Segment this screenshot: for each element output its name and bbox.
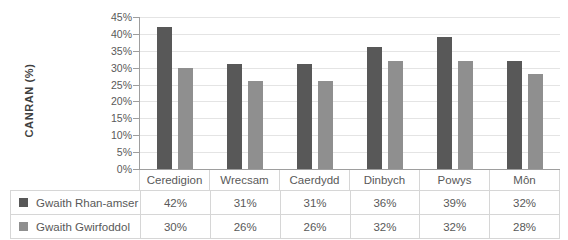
y-tick-label: 10% (94, 129, 132, 141)
bar-series-1 (367, 47, 382, 169)
value-cell: 42% (140, 191, 210, 214)
y-tick-label: 45% (94, 11, 132, 23)
y-tick-label: 40% (94, 28, 132, 40)
value-cell: 31% (280, 191, 350, 214)
bar-series-1 (157, 27, 172, 169)
value-cell: 26% (210, 214, 280, 238)
gridline (140, 68, 560, 69)
category-label: Dinbych (349, 170, 419, 190)
gridline (140, 34, 560, 35)
category-label: Powys (419, 170, 489, 190)
gridline (140, 118, 560, 119)
legend-series-name: Gwaith Gwirfoddol (11, 214, 140, 238)
gridline (140, 101, 560, 102)
gridline (140, 51, 560, 52)
bar-series-2 (248, 81, 263, 169)
bar-series-2 (528, 74, 543, 169)
category-axis-row: CeredigionWrecsamCaerdyddDinbychPowysMôn (139, 170, 560, 190)
legend-swatch (19, 222, 28, 231)
category-label: Môn (489, 170, 559, 190)
bar-series-1 (437, 37, 452, 169)
value-cell: 32% (350, 214, 420, 238)
bar-series-2 (318, 81, 333, 169)
y-axis-title: CANRAN (%) (23, 41, 38, 161)
gridline (140, 135, 560, 136)
gridline (140, 152, 560, 153)
y-tick-label: 35% (94, 45, 132, 57)
legend-data-table: Gwaith Rhan-amser42%31%31%36%39%32%Gwait… (10, 190, 560, 239)
y-tick-label: 5% (94, 146, 132, 158)
value-cell: 32% (489, 191, 559, 214)
bar-series-2 (388, 61, 403, 169)
value-cell: 32% (419, 214, 489, 238)
legend-swatch (19, 198, 28, 207)
bar-series-1 (227, 64, 242, 169)
category-label: Caerdydd (279, 170, 349, 190)
bar-series-1 (507, 61, 522, 169)
legend-series-label: Gwaith Rhan-amser (36, 197, 138, 209)
gridline (140, 85, 560, 86)
category-label: Wrecsam (209, 170, 279, 190)
gridline (140, 17, 560, 18)
y-tick-label: 20% (94, 95, 132, 107)
legend-series-name: Gwaith Rhan-amser (11, 191, 140, 214)
bar-series-2 (458, 61, 473, 169)
value-cell: 28% (489, 214, 559, 238)
value-cell: 30% (140, 214, 210, 238)
y-tick-label: 15% (94, 112, 132, 124)
category-label: Ceredigion (139, 170, 209, 190)
value-cell: 31% (210, 191, 280, 214)
legend-series-label: Gwaith Gwirfoddol (36, 221, 130, 233)
value-cell: 36% (350, 191, 420, 214)
y-tick-label: 25% (94, 79, 132, 91)
chart-container: CANRAN (%) 0%5%10%15%20%25%30%35%40%45% … (0, 0, 568, 240)
plot-area (139, 17, 560, 170)
value-cell: 39% (419, 191, 489, 214)
y-tick-label: 30% (94, 62, 132, 74)
bar-series-2 (178, 68, 193, 169)
value-cell: 26% (280, 214, 350, 238)
bar-series-1 (297, 64, 312, 169)
y-tick-label: 0% (94, 163, 132, 175)
